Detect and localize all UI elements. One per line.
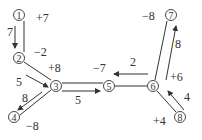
label: 7 xyxy=(7,25,13,39)
label: 5 xyxy=(16,75,22,89)
edge-6-7 xyxy=(155,21,167,80)
node-7: 7 xyxy=(166,10,177,21)
flow-arrow-2-3 xyxy=(26,75,48,87)
node-2: 2 xyxy=(14,53,25,64)
edge-6-8 xyxy=(157,91,176,112)
svg-text:8: 8 xyxy=(178,112,183,123)
edge-2-3 xyxy=(24,62,51,80)
label: 2 xyxy=(130,55,136,69)
node-4: 4 xyxy=(9,112,20,123)
label: 8 xyxy=(22,91,28,105)
flow-arrow-8-6 xyxy=(168,91,184,110)
label: +6 xyxy=(170,70,183,84)
node-1: 1 xyxy=(14,10,25,21)
label: 4 xyxy=(184,90,190,104)
label: 8 xyxy=(175,37,181,51)
label: −7 xyxy=(93,61,106,75)
node-8: 8 xyxy=(175,112,186,123)
svg-text:1: 1 xyxy=(17,10,22,21)
label: +8 xyxy=(48,61,61,75)
node-6: 6 xyxy=(148,81,159,92)
svg-text:7: 7 xyxy=(169,10,174,21)
svg-text:2: 2 xyxy=(17,53,22,64)
svg-text:4: 4 xyxy=(12,112,17,123)
flow-diagram: 1 2 3 4 5 6 7 8 +7 7 −2 +8 5 8 −8 5 −7 2… xyxy=(0,0,202,140)
label: 5 xyxy=(75,93,81,107)
label: −2 xyxy=(34,45,47,59)
label: −8 xyxy=(142,9,155,23)
label: +4 xyxy=(153,114,166,128)
node-3: 3 xyxy=(51,81,62,92)
svg-text:5: 5 xyxy=(107,81,112,92)
label: +7 xyxy=(36,11,49,25)
svg-text:6: 6 xyxy=(151,81,156,92)
label: −8 xyxy=(26,119,39,133)
svg-text:3: 3 xyxy=(54,81,59,92)
node-5: 5 xyxy=(104,81,115,92)
